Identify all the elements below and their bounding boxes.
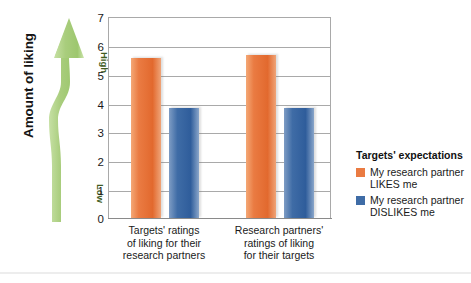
ytick-3: 3 [98,127,104,139]
category-label-1: Research partners' ratings of liking for… [214,224,344,262]
category-label-1-line-1: ratings of liking [214,237,344,250]
legend: Targets' expectations My research partne… [356,149,468,222]
legend-swatch-likes-icon [356,168,365,177]
bar-dislikes-group-0 [169,108,199,218]
bar-dislikes-group-1 [284,108,314,218]
legend-item-dislikes: My research partner DISLIKES me [356,194,468,219]
legend-swatch-dislikes-icon [356,196,365,205]
category-label-1-line-0: Research partners' [214,224,344,237]
ytick-1: 1 [98,185,104,197]
page-bottom-rule [0,272,471,274]
ytick-2: 2 [98,156,104,168]
ytick-5: 5 [98,70,104,82]
category-label-1-line-2: for their targets [214,249,344,262]
legend-label-dislikes: My research partner DISLIKES me [370,194,468,219]
legend-label-likes: My research partner LIKES me [370,166,468,191]
category-label-0-line-2: research partners [99,249,229,262]
gridline-6 [109,47,330,48]
legend-title: Targets' expectations [356,149,468,161]
category-label-0-line-0: Targets' ratings [99,224,229,237]
liking-direction-arrow: High Low [42,16,86,222]
bar-likes-group-1 [246,55,276,218]
legend-item-likes: My research partner LIKES me [356,166,468,191]
bar-likes-group-0 [131,58,161,218]
figure-bar-chart: Amount of liking High Low 7 [0,0,471,283]
y-axis-title: Amount of liking [21,21,36,151]
category-label-0: Targets' ratings of liking for their res… [99,224,229,262]
category-label-0-line-1: of liking for their [99,237,229,250]
ytick-6: 6 [98,41,104,53]
plot-area: 7 6 5 4 3 2 1 0 [108,17,331,219]
ytick-4: 4 [98,99,104,111]
ytick-7: 7 [98,12,104,24]
x-axis-baseline [108,218,332,219]
